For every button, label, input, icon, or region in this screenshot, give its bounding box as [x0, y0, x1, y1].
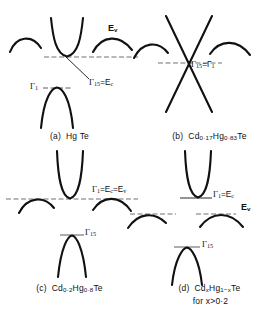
gamma15-label: Γ15	[85, 228, 96, 238]
ev-label: Ev	[108, 24, 117, 34]
conduction-band-upward-parabola	[57, 151, 83, 199]
conduction-band-upward-parabola	[51, 18, 83, 57]
panel-d-caption-line2: for x>0·2	[140, 296, 279, 307]
gamma15-label: Γ15	[202, 240, 213, 250]
panel-c-caption: (c)Cd0·2Hg0·8Te	[0, 283, 139, 296]
valence-lobe-right	[93, 39, 132, 52]
gamma1-ec-label: Γ1=Ec	[213, 190, 234, 200]
panel-d-cdxhg1xte: Γ1=Ec Ev Γ15 (d)CdxHg1−xTe for x>0·2	[140, 159, 279, 318]
gamma15-gamma1-label: Γ15=Γ1	[191, 60, 215, 70]
gamma1-ec-ev-label: Γ1=Ec=Ev	[92, 185, 126, 195]
valence-lobe-right	[210, 43, 250, 55]
valence-lobe-left	[134, 44, 168, 58]
gamma15-ec-label: Γ15=Ec	[89, 78, 113, 88]
valence-lobe-left	[19, 199, 54, 213]
panel-b-cd017hg083te: Γ15=Γ1 (b)Cd0·17Hg0·83Te	[140, 0, 279, 159]
panel-d-caption: (d)CdxHg1−xTe for x>0·2	[140, 283, 279, 306]
panel-c-cd02hg08te: Γ1=Ec=Ev Γ15 (c)Cd0·2Hg0·8Te	[0, 159, 139, 318]
gamma1-band-downward-parabola	[41, 88, 73, 129]
valence-lobe-left	[10, 39, 41, 52]
ev-label: Ev	[241, 203, 250, 213]
gamma15-band-downward-parabola	[172, 248, 202, 286]
panel-a-caption: (a)Hg Te	[0, 131, 139, 142]
band-structure-figure: Ev Γ15=Ec Γ1 (a)Hg Te Γ15=Γ1 (b)Cd0·17H	[0, 0, 279, 318]
valence-lobe-right	[93, 199, 131, 211]
valence-lobe-right	[200, 215, 243, 227]
gamma15-leader-line	[66, 57, 89, 79]
panel-b-caption: (b)Cd0·17Hg0·83Te	[140, 131, 279, 144]
panel-a-hgte: Ev Γ15=Ec Γ1 (a)Hg Te	[0, 0, 139, 159]
gamma15-band-downward-parabola	[58, 236, 86, 278]
gamma1-label: Γ1	[30, 82, 38, 92]
